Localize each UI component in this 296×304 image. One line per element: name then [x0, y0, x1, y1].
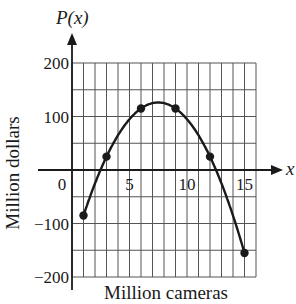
data-point [240, 249, 248, 257]
x-tick-label: 5 [125, 175, 134, 194]
x-tick-label: 15 [236, 175, 253, 194]
data-point [137, 104, 145, 112]
data-point [206, 152, 214, 160]
profit-chart: 051015200100−100−200 P(x) x Million came… [0, 0, 296, 304]
y-tick-label: −200 [34, 268, 69, 287]
x-tick-label: 0 [58, 175, 67, 194]
data-point [171, 104, 179, 112]
y-axis-title: Million dollars [2, 116, 23, 229]
y-tick-label: 200 [44, 54, 70, 73]
x-tick-label: 10 [179, 175, 196, 194]
data-point [102, 152, 110, 160]
x-axis-title: Million cameras [104, 282, 228, 303]
y-tick-label: −100 [34, 215, 69, 234]
data-point [79, 211, 87, 219]
y-tick-label: 100 [44, 108, 70, 127]
y-axis-function-label: P(x) [55, 7, 89, 29]
x-axis-symbol: x [285, 158, 295, 179]
